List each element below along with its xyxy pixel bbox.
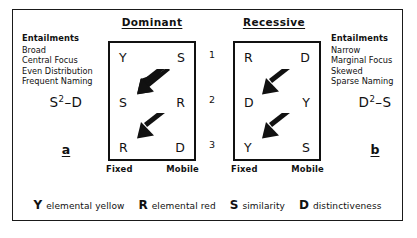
down-left-arrow-icon (259, 113, 299, 139)
matrix-cell: Y (119, 52, 127, 65)
formula-tail: –D (64, 94, 82, 110)
legend-symbol: R (138, 198, 147, 212)
legend-entry: D distinctiveness (299, 198, 382, 212)
entailment-item: Even Distribution (22, 66, 110, 76)
row-number: 2 (204, 94, 220, 105)
axis-label-mobile: Mobile (166, 164, 199, 174)
legend-entry: S similarity (230, 198, 285, 212)
matrix-cell: Y (244, 142, 252, 155)
panel-letter-b: b (331, 142, 417, 157)
matrix-cell: S (177, 52, 185, 65)
entailments-heading-dominant: Entailments (22, 33, 110, 43)
axis-label-fixed: Fixed (231, 164, 258, 174)
legend-entry: R elemental red (138, 198, 215, 212)
row-number: 1 (204, 49, 220, 60)
legend-text: similarity (242, 201, 285, 211)
matrix-box-dominant: Y S S R R D (108, 41, 196, 161)
formula-base: D (359, 94, 370, 110)
matrix-cell: R (119, 142, 128, 155)
matrix-cell: S (119, 97, 127, 110)
formula-recessive: D2–S (331, 94, 417, 110)
row-number: 3 (204, 139, 220, 150)
axis-label-mobile: Mobile (291, 164, 324, 174)
figure-legend: Y elemental yellow R elemental red S sim… (12, 198, 403, 212)
matrix-cell: S (302, 142, 310, 155)
entailments-recessive: Entailments Narrow Marginal Focus Skewed… (331, 33, 417, 86)
formula-tail: –S (375, 94, 391, 110)
matrix-cell: R (244, 52, 253, 65)
figure-root: Dominant Entailments Broad Central Focus… (0, 0, 417, 238)
entailment-item: Frequent Naming (22, 76, 110, 86)
matrix-cell: D (300, 52, 310, 65)
legend-symbol: D (299, 198, 309, 212)
entailments-dominant: Entailments Broad Central Focus Even Dis… (22, 33, 110, 86)
formula-dominant: S2–D (22, 94, 110, 110)
entailment-item: Central Focus (22, 55, 110, 65)
down-left-arrow-icon (134, 69, 174, 95)
matrix-cell: D (244, 97, 254, 110)
entailment-item: Broad (22, 45, 110, 55)
legend-symbol: S (230, 198, 239, 212)
panel-title-dominant: Dominant (104, 16, 200, 28)
legend-text: distinctiveness (313, 201, 382, 211)
down-left-arrow-icon (259, 69, 299, 95)
matrix-cell: D (175, 142, 185, 155)
entailments-heading-recessive: Entailments (331, 33, 417, 43)
entailment-item: Marginal Focus (331, 55, 417, 65)
legend-text: elemental red (152, 201, 216, 211)
axis-labels-dominant: Fixed Mobile (97, 164, 207, 176)
panel-title-recessive: Recessive (226, 16, 322, 28)
entailment-item: Sparse Naming (331, 76, 417, 86)
matrix-cell: Y (302, 97, 310, 110)
legend-entry: Y elemental yellow (33, 198, 124, 212)
matrix-cell: R (176, 97, 185, 110)
axis-labels-recessive: Fixed Mobile (222, 164, 332, 176)
entailment-item: Skewed (331, 66, 417, 76)
matrix-box-recessive: R D D Y Y S (233, 41, 321, 161)
entailment-item: Narrow (331, 45, 417, 55)
formula-base: S (50, 94, 59, 110)
legend-symbol: Y (33, 198, 42, 212)
legend-text: elemental yellow (46, 201, 124, 211)
down-left-arrow-icon (134, 113, 174, 139)
panel-letter-a: a (22, 142, 110, 157)
axis-label-fixed: Fixed (106, 164, 133, 174)
